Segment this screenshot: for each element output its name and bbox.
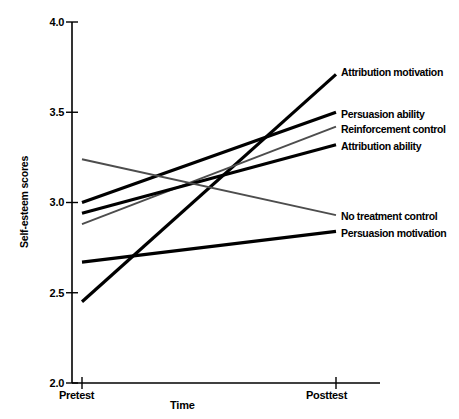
series-line-reinforcement-control [82, 127, 336, 224]
series-label-no-treatment-control: No treatment control [341, 210, 437, 222]
series-label-reinforcement-control: Reinforcement control [341, 123, 446, 135]
chart-figure: Self-esteem scores Time 4.0 3.5 3.0 2.5 … [0, 0, 459, 419]
series-line-persuasion-motivation [82, 231, 336, 262]
series-label-attribution-ability: Attribution ability [341, 140, 421, 152]
series-line-no-treatment-control [82, 159, 336, 215]
series-label-persuasion-ability: Persuasion ability [341, 108, 425, 120]
series-label-attribution-motivation: Attribution motivation [341, 66, 443, 78]
series-label-persuasion-motivation: Persuasion motivation [341, 227, 446, 239]
data-series-lines [82, 74, 336, 301]
series-line-attribution-ability [82, 145, 336, 214]
